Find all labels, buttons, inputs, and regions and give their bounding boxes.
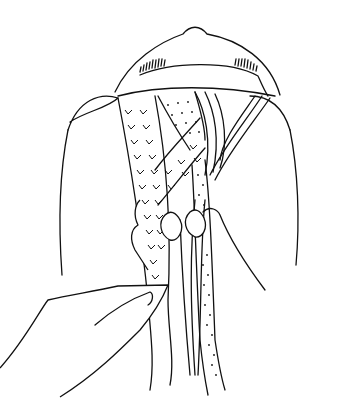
left-hand bbox=[0, 285, 168, 397]
braiding-illustration bbox=[0, 0, 353, 418]
right-hand-fingers bbox=[132, 200, 265, 290]
chevron-strand-cross bbox=[155, 118, 205, 205]
line-drawing bbox=[0, 0, 353, 418]
head bbox=[115, 27, 280, 96]
shoulders bbox=[60, 96, 298, 275]
